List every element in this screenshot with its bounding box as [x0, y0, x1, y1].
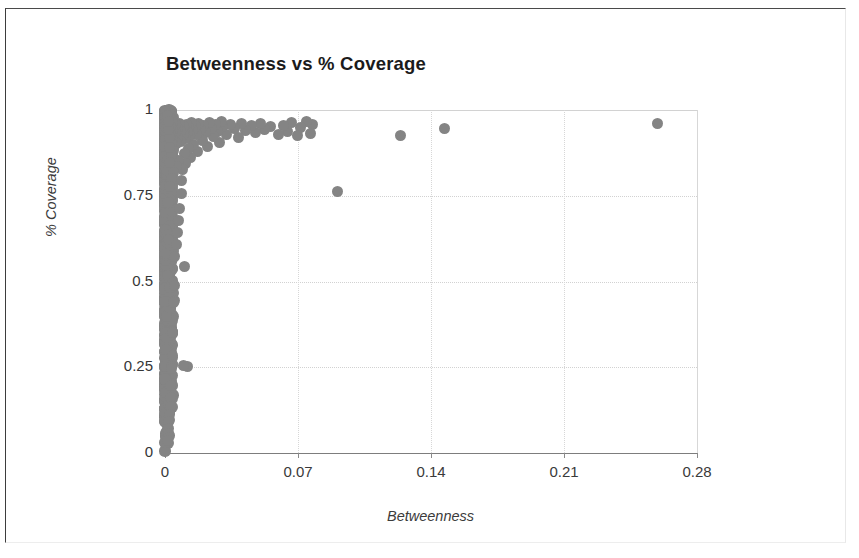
y-tick-label: 0: [43, 443, 153, 460]
y-tick-label: 1: [43, 100, 153, 117]
x-axis-label-text: Betweenness: [387, 508, 474, 524]
y-tick-mark: [160, 110, 165, 111]
x-tick-label: 0.21: [549, 463, 578, 480]
x-axis-label: Betweenness: [0, 508, 859, 524]
y-axis-line: [165, 110, 166, 454]
scatter-chart-figure: Betweenness vs % Coverage 00.250.50.7510…: [0, 0, 859, 558]
gridline-vertical: [564, 110, 565, 453]
x-tick-mark: [564, 453, 565, 458]
plot-area: [165, 110, 697, 453]
y-tick-mark: [160, 367, 165, 368]
gridline-vertical: [431, 110, 432, 453]
x-tick-mark: [298, 453, 299, 458]
x-tick-mark: [165, 453, 166, 458]
y-tick-label: 0.25: [43, 357, 153, 374]
y-axis-label: % Coverage: [43, 157, 59, 237]
x-tick-label: 0.07: [283, 463, 312, 480]
x-tick-label: 0.28: [682, 463, 711, 480]
y-tick-label: 0.5: [43, 272, 153, 289]
y-tick-mark: [160, 196, 165, 197]
x-tick-label: 0: [161, 463, 169, 480]
x-tick-mark: [431, 453, 432, 458]
y-tick-mark: [160, 282, 165, 283]
plot-top-gridline: [165, 110, 698, 111]
gridline-vertical: [298, 110, 299, 453]
y-tick-label: 0.75: [43, 186, 153, 203]
plot-right-gridline: [697, 110, 698, 454]
chart-title: Betweenness vs % Coverage: [166, 53, 426, 75]
x-tick-mark: [697, 453, 698, 458]
x-tick-label: 0.14: [416, 463, 445, 480]
